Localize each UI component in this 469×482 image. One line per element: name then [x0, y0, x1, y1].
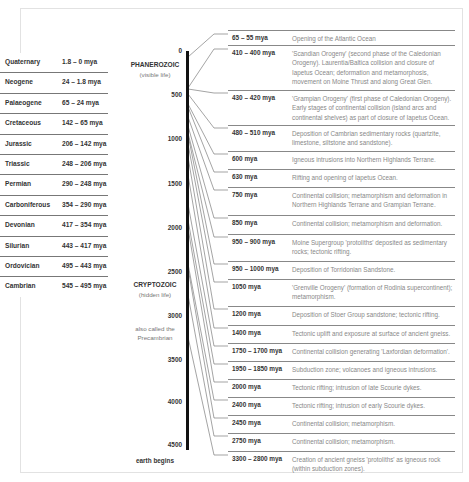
event-row: 480 – 510 myaDeposition of Cambrian sedi… — [228, 125, 455, 126]
eon-cryptozoic-title: CRYPTOZOIC — [120, 281, 190, 288]
connector-line — [188, 49, 228, 88]
event-row: 3300 – 2800 myaCreation of ancient gneis… — [228, 451, 455, 452]
event-row: 2000 myaTectonic rifting; intrusion of l… — [228, 379, 455, 380]
tick-label: 4000 — [168, 398, 182, 405]
event-row: 850 myaContinental collision; metamorphi… — [228, 215, 455, 216]
tick-label: 2500 — [168, 268, 182, 275]
event-row: 1200 myaDeposition of Stoer Group sandst… — [228, 306, 455, 307]
event-row: 1400 myaTectonic uplift and exposure at … — [228, 325, 455, 326]
event-date: 2750 mya — [232, 437, 261, 444]
event-row: 600 myaIgneous intrusions into Northern … — [228, 151, 455, 152]
event-description: Igneous intrusions into Northern Highlan… — [292, 155, 454, 164]
event-date: 950 – 1000 mya — [232, 265, 279, 272]
connector-line — [188, 268, 228, 418]
connector-line — [188, 89, 228, 93]
event-row: 1050 mya'Grenville Orogeny' (formation o… — [228, 279, 455, 280]
event-row: 1750 – 1700 myaContinental collision gen… — [228, 343, 455, 344]
event-description: Tectonic rifting; intrusion of late Scou… — [292, 383, 454, 392]
event-date: 1050 mya — [232, 283, 261, 290]
event-date: 3300 – 2800 mya — [232, 455, 282, 462]
event-description: Continental collision; metamorphism. — [292, 419, 454, 428]
earth-begins-label: earth begins — [136, 457, 174, 464]
event-description: Tectonic uplift and exposure at surface … — [292, 329, 454, 338]
event-date: 2000 mya — [232, 383, 261, 390]
event-description: Continental collision; metamorphism and … — [292, 219, 454, 228]
connector-line — [188, 94, 228, 128]
event-row: 2450 myaContinental collision; metamorph… — [228, 415, 455, 416]
connector-line — [188, 135, 228, 264]
event-date: 1950 – 1850 mya — [232, 365, 282, 372]
connector-line — [188, 34, 228, 57]
event-row: 2750 myaContinental collision; metamorph… — [228, 433, 455, 434]
event-date: 430 – 420 mya — [232, 94, 275, 101]
event-description: Rifting and opening of Iapetus Ocean. — [292, 173, 454, 182]
event-description: Continental collision; metamorphism. — [292, 437, 454, 446]
eon-phanerozoic-subtitle: (visible life) — [120, 71, 190, 78]
precambrian-note: also called the Precambrian — [120, 324, 190, 342]
tick-label: 1000 — [168, 135, 182, 142]
tick-label: 0 — [178, 47, 182, 54]
event-row: 950 – 900 myaMoine Supergroup 'protolith… — [228, 234, 455, 235]
event-row: 410 – 400 mya'Scandian Orogeny' (second … — [228, 45, 455, 46]
event-row: 750 myaContinental collision; metamorphi… — [228, 187, 455, 188]
tick-label: 500 — [171, 91, 182, 98]
event-description: Creation of ancient gneiss 'protoliths' … — [292, 455, 454, 474]
event-row: 430 – 420 mya'Grampian Orogeny' (first p… — [228, 90, 455, 91]
event-date: 410 – 400 mya — [232, 49, 275, 56]
event-row: 950 – 1000 myaDeposition of Torridonian … — [228, 261, 455, 262]
tick-label: 4500 — [168, 441, 182, 448]
event-date: 850 mya — [232, 219, 257, 226]
event-description: Deposition of Torridonian Sandstone. — [292, 265, 454, 274]
event-date: 1200 mya — [232, 310, 261, 317]
event-date: 2450 mya — [232, 419, 261, 426]
event-description: Tectonic rifting; intrusion of early Sco… — [292, 401, 454, 410]
event-row: 630 myaRifting and opening of Iapetus Oc… — [228, 169, 455, 170]
eon-cryptozoic-subtitle: (hidden life) — [120, 291, 190, 298]
event-date: 2400 mya — [232, 401, 261, 408]
event-date: 950 – 900 mya — [232, 238, 275, 245]
event-date: 65 – 55 mya — [232, 34, 268, 41]
tick-label: 3500 — [168, 356, 182, 363]
event-date: 630 mya — [232, 173, 257, 180]
timeline-axis — [186, 51, 189, 450]
event-description: 'Scandian Orogeny' (second phase of the … — [292, 49, 454, 86]
event-row: 1950 – 1850 myaSubduction zone; volcanoe… — [228, 361, 455, 362]
event-description: Continental collision generating 'Laxfor… — [292, 347, 454, 356]
event-description: Subduction zone; volcanoes and igneous i… — [292, 365, 454, 374]
eon-phanerozoic-title: PHANEROZOIC — [120, 61, 190, 68]
event-description: Continental collision; metamorphism and … — [292, 191, 454, 210]
event-description: Moine Supergroup 'protoliths' deposited … — [292, 238, 454, 257]
tick-label: 3000 — [168, 312, 182, 319]
event-date: 600 mya — [232, 155, 257, 162]
tick-label: 1500 — [168, 180, 182, 187]
connector-line — [188, 337, 228, 455]
connector-line — [188, 133, 228, 237]
event-row: 2400 myaTectonic rifting; intrusion of e… — [228, 397, 455, 398]
event-date: 480 – 510 mya — [232, 129, 275, 136]
event-description: Opening of the Atlantic Ocean — [292, 34, 454, 43]
event-description: 'Grampian Orogeny' (first phase of Caled… — [292, 94, 454, 122]
tick-label: 2000 — [168, 224, 182, 231]
event-row: 65 – 55 myaOpening of the Atlantic Ocean — [228, 30, 455, 31]
event-date: 1750 – 1700 mya — [232, 347, 282, 354]
event-date: 1400 mya — [232, 329, 261, 336]
event-date: 750 mya — [232, 191, 257, 198]
event-description: Deposition of Stoer Group sandstone; tec… — [292, 310, 454, 319]
event-description: 'Grenville Orogeny' (formation of Rodini… — [292, 283, 454, 302]
connector-line — [188, 107, 228, 172]
event-description: Deposition of Cambrian sedimentary rocks… — [292, 129, 454, 148]
